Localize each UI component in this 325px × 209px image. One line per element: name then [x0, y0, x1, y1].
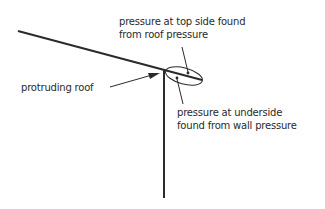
- arrow-head-icon: [148, 73, 160, 79]
- top-point-dot: [187, 72, 190, 75]
- label-top-line1: pressure at top side found: [119, 16, 245, 29]
- roof-arrow-line: [110, 75, 152, 87]
- label-protruding-roof: protruding roof: [21, 82, 93, 95]
- label-top-side: pressure at top side found from roof pre…: [119, 16, 245, 41]
- under-point-dot: [176, 77, 179, 80]
- label-underside: pressure at underside found from wall pr…: [177, 107, 297, 132]
- label-under-line1: pressure at underside: [177, 107, 297, 120]
- label-roof-text: protruding roof: [21, 82, 93, 93]
- label-top-line2: from roof pressure: [119, 29, 245, 42]
- label-under-line2: found from wall pressure: [177, 120, 297, 133]
